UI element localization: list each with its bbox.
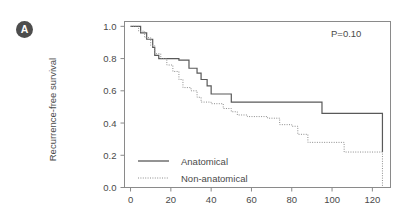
series-line-anatomical bbox=[131, 26, 383, 152]
y-tick-label: 0.4 bbox=[103, 118, 116, 129]
x-tick-label: 120 bbox=[364, 194, 380, 205]
y-axis-ticks: 0.00.20.40.60.81.0 bbox=[103, 21, 124, 193]
plot-frame bbox=[125, 22, 391, 188]
kaplan-meier-plot: 020406080100120 0.00.20.40.60.81.0 P=0.1… bbox=[0, 0, 408, 219]
y-tick-label: 0.6 bbox=[103, 85, 116, 96]
x-tick-label: 0 bbox=[128, 194, 133, 205]
p-value-annotation: P=0.10 bbox=[331, 28, 361, 39]
y-tick-label: 1.0 bbox=[103, 21, 116, 32]
x-tick-label: 80 bbox=[286, 194, 297, 205]
series-line-non-anatomical bbox=[131, 26, 383, 187]
y-tick-label: 0.8 bbox=[103, 53, 116, 64]
figure-panel-a: A Recurrence-free survival 0204060801001… bbox=[0, 0, 408, 219]
x-tick-label: 40 bbox=[206, 194, 217, 205]
x-axis-ticks: 020406080100120 bbox=[128, 188, 380, 205]
chart-legend: Anatomical Non-anatomical bbox=[138, 156, 248, 184]
x-tick-label: 60 bbox=[246, 194, 257, 205]
y-tick-label: 0.2 bbox=[103, 150, 116, 161]
legend-label-non-anatomical: Non-anatomical bbox=[181, 173, 248, 184]
legend-label-anatomical: Anatomical bbox=[181, 156, 228, 167]
x-tick-label: 100 bbox=[324, 194, 340, 205]
y-tick-label: 0.0 bbox=[103, 182, 116, 193]
x-tick-label: 20 bbox=[166, 194, 177, 205]
